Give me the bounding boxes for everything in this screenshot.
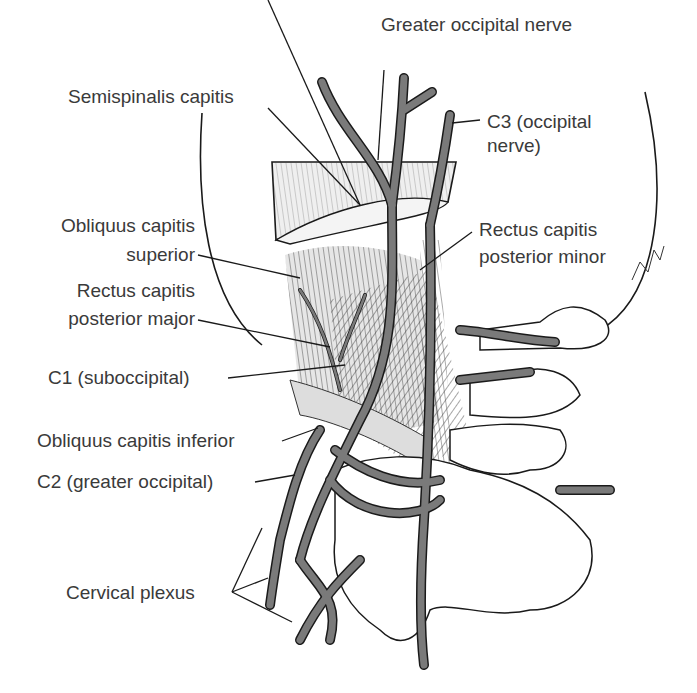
label-rcp-major-line1: Rectus capitis bbox=[77, 279, 195, 302]
label-rcp-minor-line2: posterior minor bbox=[479, 245, 606, 268]
label-c3-line1: C3 (occipital bbox=[487, 110, 592, 133]
label-obliquus-inferior: Obliquus capitis inferior bbox=[37, 429, 234, 452]
label-c3-line2: nerve) bbox=[487, 134, 541, 157]
label-obliquus-superior-line2: superior bbox=[126, 243, 195, 266]
label-c2-greater-occipital: C2 (greater occipital) bbox=[37, 470, 213, 493]
label-greater-occipital-nerve: Greater occipital nerve bbox=[381, 13, 572, 36]
label-rcp-major-line2: posterior major bbox=[68, 307, 195, 330]
label-semispinalis-capitis: Semispinalis capitis bbox=[68, 85, 234, 108]
label-obliquus-superior-line1: Obliquus capitis bbox=[61, 214, 195, 237]
label-cervical-plexus: Cervical plexus bbox=[66, 581, 195, 604]
label-rcp-minor-line1: Rectus capitis bbox=[479, 218, 597, 241]
label-c1-suboccipital: C1 (suboccipital) bbox=[48, 366, 190, 389]
anatomy-diagram: Greater occipital nerve Semispinalis cap… bbox=[0, 0, 697, 693]
